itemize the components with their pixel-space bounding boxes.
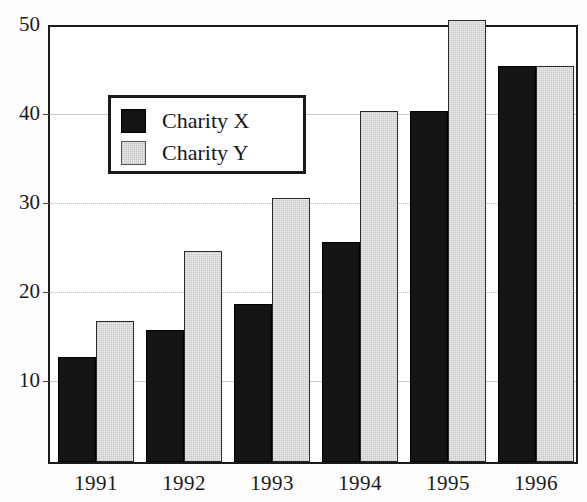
- legend-entry-charity-y: Charity Y: [121, 137, 303, 169]
- bar-charity-y-1991: [96, 321, 134, 462]
- bar-charity-x-1996: [498, 66, 536, 462]
- y-tick-label-30: 30: [0, 192, 40, 213]
- bar-charity-y-1993: [272, 198, 310, 462]
- y-axis-tick-20: [43, 292, 50, 293]
- legend-entry-charity-x: Charity X: [121, 105, 303, 137]
- y-tick-label-50: 50: [0, 14, 40, 35]
- x-tick-label-1992: 1992: [144, 472, 224, 494]
- bar-charity-y-1996: [536, 66, 574, 462]
- y-tick-label-10: 10: [0, 370, 40, 391]
- legend-label-charity-x: Charity X: [162, 110, 249, 132]
- bar-charity-y-1992: [184, 251, 222, 462]
- legend-swatch-charity-y: [121, 141, 146, 165]
- bar-charity-x-1995: [410, 111, 448, 462]
- bar-charity-x-1993: [234, 304, 272, 462]
- bar-charity-y-1995: [448, 20, 486, 462]
- x-tick-label-1993: 1993: [232, 472, 312, 494]
- bar-chart: 50 40 30 20 10: [0, 0, 587, 502]
- y-tick-label-20: 20: [0, 281, 40, 302]
- x-tick-label-1994: 1994: [320, 472, 400, 494]
- x-tick-label-1991: 1991: [56, 472, 136, 494]
- y-axis-tick-30: [43, 203, 50, 204]
- x-tick-label-1995: 1995: [408, 472, 488, 494]
- bar-charity-x-1991: [58, 357, 96, 462]
- bar-charity-x-1992: [146, 330, 184, 462]
- x-tick-label-1996: 1996: [496, 472, 576, 494]
- legend-swatch-charity-x: [121, 109, 146, 133]
- bar-charity-x-1994: [322, 242, 360, 462]
- chart-legend: Charity X Charity Y: [108, 95, 306, 174]
- y-axis-tick-10: [43, 381, 50, 382]
- y-tick-label-40: 40: [0, 103, 40, 124]
- bar-charity-y-1994: [360, 111, 398, 462]
- plot-area: [48, 25, 578, 464]
- y-axis-tick-40: [43, 114, 50, 115]
- legend-label-charity-y: Charity Y: [162, 142, 249, 164]
